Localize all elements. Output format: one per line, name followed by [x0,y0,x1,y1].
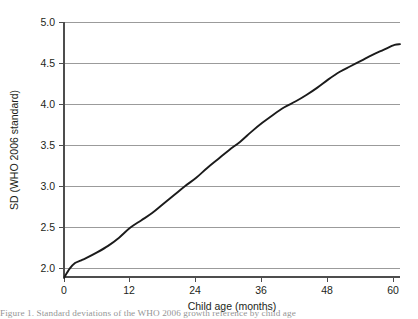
x-tick-labels-group: 0 12 24 36 48 60 [61,284,399,296]
sd-growth-curve [64,44,400,278]
growth-standard-line-chart: 5.0 4.5 4.0 3.5 3.0 2.5 2.0 0 12 24 36 4… [0,0,418,319]
y-tick-labels-group: 5.0 4.5 4.0 3.5 3.0 2.5 2.0 [40,16,55,274]
y-tick-marks-group [59,22,64,268]
figure-caption: Figure 1. Standard deviations of the WHO… [0,308,418,319]
y-tick-label-4-0: 4.0 [40,98,55,110]
y-tick-label-4-5: 4.5 [40,57,55,69]
y-tick-label-2-5: 2.5 [40,221,55,233]
x-tick-label-24: 24 [189,284,201,296]
x-tick-label-12: 12 [123,284,135,296]
y-tick-label-3-0: 3.0 [40,180,55,192]
x-tick-label-0: 0 [61,284,67,296]
x-tick-marks-group [64,277,393,282]
figure-container: 5.0 4.5 4.0 3.5 3.0 2.5 2.0 0 12 24 36 4… [0,0,418,319]
axes-group [64,22,400,277]
x-tick-label-60: 60 [387,284,399,296]
x-tick-label-36: 36 [255,284,267,296]
gridlines-group [64,22,400,268]
y-axis-title: SD (WHO 2006 standard) [8,90,20,210]
x-tick-label-48: 48 [321,284,333,296]
y-tick-label-2-0: 2.0 [40,262,55,274]
y-tick-label-3-5: 3.5 [40,139,55,151]
y-tick-label-5-0: 5.0 [40,16,55,28]
